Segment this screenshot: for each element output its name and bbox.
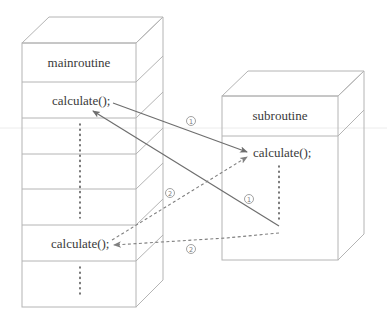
svg-text:2: 2 xyxy=(168,190,172,198)
sub-right-face xyxy=(338,71,364,260)
call-flow-diagram: mainroutine calculate(); calculate(); su… xyxy=(0,0,387,321)
svg-text:1: 1 xyxy=(247,196,251,204)
main-top-face xyxy=(22,17,163,43)
sub-top-face xyxy=(222,71,364,96)
sub-calculate-call: calculate(); xyxy=(253,145,311,160)
svg-text:1: 1 xyxy=(189,118,193,126)
mainroutine-stack: mainroutine calculate(); calculate(); xyxy=(22,17,163,307)
step-marker-call-1: 1 xyxy=(187,117,196,126)
step-marker-return-1: 1 xyxy=(245,195,254,204)
main-calculate-call-1: calculate(); xyxy=(52,93,110,108)
main-row-separators xyxy=(22,82,136,261)
step-marker-call-2: 2 xyxy=(166,189,175,198)
main-calculate-call-2: calculate(); xyxy=(51,236,109,251)
subroutine-box: subroutine calculate(); xyxy=(222,71,364,260)
sub-side-separator xyxy=(338,110,364,136)
main-front-face xyxy=(22,43,136,307)
svg-text:2: 2 xyxy=(189,246,193,254)
mainroutine-title: mainroutine xyxy=(48,55,111,70)
main-side-separators xyxy=(136,56,163,261)
return-2-arrow xyxy=(114,233,279,245)
call-2-arrow xyxy=(112,157,247,240)
step-marker-return-2: 2 xyxy=(187,245,196,254)
subroutine-title: subroutine xyxy=(253,108,308,123)
